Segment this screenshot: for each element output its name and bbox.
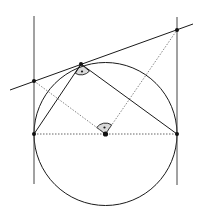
point-q xyxy=(175,28,179,32)
right-angle-dot-t xyxy=(81,70,83,72)
geometry-diagram xyxy=(0,0,201,214)
point-t xyxy=(79,62,83,66)
right-angle-dot-m xyxy=(103,126,105,128)
point-p xyxy=(32,79,36,83)
point-m-center xyxy=(103,131,108,136)
point-a xyxy=(32,132,36,136)
point-b xyxy=(175,132,179,136)
